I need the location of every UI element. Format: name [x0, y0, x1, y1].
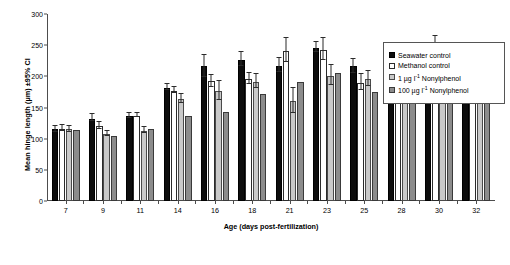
bar[interactable] — [148, 129, 154, 201]
bar[interactable] — [215, 91, 221, 201]
bar-slot — [133, 14, 139, 201]
bar[interactable] — [335, 73, 341, 201]
bar[interactable] — [260, 94, 266, 201]
legend-swatch-icon — [389, 74, 395, 80]
error-bar — [316, 41, 317, 52]
x-tick-mark — [439, 201, 440, 204]
bar[interactable] — [73, 130, 79, 201]
error-bar — [285, 37, 286, 62]
bar[interactable] — [111, 136, 117, 201]
x-tick-mark — [476, 201, 477, 204]
bar[interactable] — [253, 82, 259, 201]
bar-slot — [52, 14, 58, 201]
error-bar — [241, 51, 242, 66]
bar[interactable] — [52, 129, 58, 201]
bar[interactable] — [238, 60, 244, 201]
bar[interactable] — [103, 134, 109, 201]
bar-group — [84, 14, 121, 201]
x-tick-label: 18 — [234, 201, 271, 215]
y-tick-label: 200 — [22, 73, 43, 80]
bar-group — [346, 14, 383, 201]
x-tick-label: 16 — [196, 201, 233, 215]
x-tick-label: 14 — [159, 201, 196, 215]
error-bar — [278, 57, 279, 72]
x-tick-mark — [66, 201, 67, 204]
bar-slot — [89, 14, 95, 201]
bar-slot — [253, 14, 259, 201]
error-bar — [211, 74, 212, 86]
bar-group — [271, 14, 308, 201]
error-bar — [166, 83, 167, 90]
legend-item[interactable]: Seawater control — [389, 52, 500, 59]
error-bar — [92, 113, 93, 121]
legend-item[interactable]: Methanol control — [389, 62, 500, 69]
bar[interactable] — [357, 83, 363, 201]
bar-slot — [185, 14, 191, 201]
bar[interactable] — [59, 129, 65, 201]
bar-slot — [313, 14, 319, 201]
bar[interactable] — [164, 88, 170, 201]
error-bar — [218, 80, 219, 100]
bar[interactable] — [350, 66, 356, 201]
bar[interactable] — [327, 76, 333, 201]
error-bar — [323, 37, 324, 61]
y-tick-label: 250 — [22, 42, 43, 49]
bar-slot — [111, 14, 117, 201]
bar[interactable] — [66, 129, 72, 201]
bar-slot — [201, 14, 207, 201]
bar[interactable] — [365, 79, 371, 201]
bar[interactable] — [297, 82, 303, 201]
bar[interactable] — [313, 48, 319, 201]
x-tick-label: 11 — [122, 201, 159, 215]
x-tick-label: 7 — [47, 201, 84, 215]
legend-item[interactable]: 1 µg l-1 Nonylphenol — [389, 73, 500, 82]
bar[interactable] — [223, 112, 229, 201]
legend-item[interactable]: 100 µg l-1 Nonylphenol — [389, 85, 500, 94]
x-tick-label: 23 — [308, 201, 345, 215]
bar-slot — [141, 14, 147, 201]
bar-slot — [283, 14, 289, 201]
bar[interactable] — [208, 81, 214, 201]
bar-chart-figure: Mean hinge length (µm) ±95% CI 050100150… — [0, 0, 510, 265]
bar[interactable] — [201, 66, 207, 201]
error-bar — [330, 64, 331, 85]
bar-group — [159, 14, 196, 201]
x-axis-ticks: 7911141618212325283032 — [47, 201, 495, 215]
bar-slot — [372, 14, 378, 201]
bar[interactable] — [178, 99, 184, 201]
bar-slot — [215, 14, 221, 201]
bar[interactable] — [126, 116, 132, 201]
bar[interactable] — [185, 116, 191, 201]
bar[interactable] — [290, 101, 296, 201]
bar[interactable] — [89, 119, 95, 201]
bar-slot — [327, 14, 333, 201]
bar[interactable] — [171, 91, 177, 201]
x-tick-mark — [402, 201, 403, 204]
bar-slot — [260, 14, 266, 201]
bar[interactable] — [283, 51, 289, 201]
bar-slot — [223, 14, 229, 201]
bar-slot — [208, 14, 214, 201]
error-bar — [136, 112, 137, 117]
bar[interactable] — [320, 50, 326, 201]
x-tick-label: 30 — [420, 201, 457, 215]
error-bar — [54, 125, 55, 132]
bar[interactable] — [141, 131, 147, 201]
legend-label: Seawater control — [398, 52, 451, 59]
bar-slot — [350, 14, 356, 201]
bar[interactable] — [245, 79, 251, 201]
error-bar — [353, 58, 354, 73]
x-tick-mark — [290, 201, 291, 204]
bar[interactable] — [372, 92, 378, 201]
y-tick-label: 300 — [22, 11, 43, 18]
bar[interactable] — [276, 66, 282, 201]
y-tick-label: 150 — [22, 104, 43, 111]
error-bar — [62, 124, 63, 131]
error-bar — [99, 121, 100, 128]
bar[interactable] — [96, 126, 102, 201]
bar-group — [234, 14, 271, 201]
y-axis-title: Mean hinge length (µm) ±95% CI — [23, 25, 32, 205]
bar-slot — [59, 14, 65, 201]
bar[interactable] — [133, 116, 139, 201]
bar[interactable] — [477, 90, 483, 201]
